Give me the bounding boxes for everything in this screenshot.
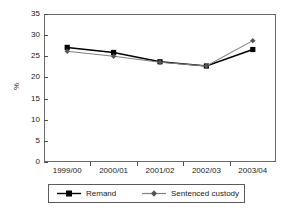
y-axis-tick-label: 25 xyxy=(14,51,40,60)
series-sentenced-custody xyxy=(65,38,256,69)
series-data-layer xyxy=(44,14,276,162)
series-remand xyxy=(65,45,256,69)
y-axis-tick-label: 35 xyxy=(14,9,40,18)
data-point-marker xyxy=(250,38,255,43)
x-axis-tick-label: 2000/01 xyxy=(88,166,140,175)
x-axis-tick-label: 2001/02 xyxy=(134,166,186,175)
data-point-marker xyxy=(250,47,255,52)
y-axis-tick-label: 5 xyxy=(14,136,40,145)
y-axis-tick-label: 0 xyxy=(14,157,40,166)
x-axis-tick-label: 2002/03 xyxy=(180,166,232,175)
y-axis-tick-mark xyxy=(44,162,48,163)
legend-swatch-sentenced-custody xyxy=(141,188,167,199)
x-axis-tick-mark xyxy=(230,162,231,166)
y-axis-tick-label: 15 xyxy=(14,94,40,103)
y-axis-tick-label: 20 xyxy=(14,72,40,81)
legend-swatch-remand xyxy=(56,188,82,199)
legend-label-sentenced-custody: Sentenced custody xyxy=(171,189,239,198)
y-axis-tick-label: 10 xyxy=(14,115,40,124)
x-axis-tick-mark xyxy=(90,162,91,166)
legend-label-remand: Remand xyxy=(86,189,116,198)
x-axis-tick-label: 1999/00 xyxy=(41,166,93,175)
line-chart: % 05101520253035 1999/002000/012001/0220… xyxy=(0,0,293,210)
y-axis-tick-label: 30 xyxy=(14,30,40,39)
x-axis-tick-label: 2003/04 xyxy=(227,166,279,175)
chart-legend: Remand Sentenced custody xyxy=(48,184,245,203)
legend-item-remand: Remand xyxy=(56,185,116,202)
x-axis-tick-mark xyxy=(183,162,184,166)
x-axis-tick-mark xyxy=(137,162,138,166)
legend-item-sentenced-custody: Sentenced custody xyxy=(141,185,239,202)
